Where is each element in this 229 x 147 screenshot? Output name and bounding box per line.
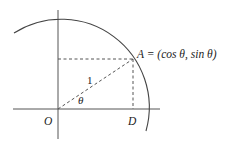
unit-circle-diagram: A = (cos θ, sin θ) 1 θ O D <box>0 0 229 147</box>
label-angle-theta: θ <box>78 94 84 106</box>
label-radius: 1 <box>87 74 93 86</box>
radius-OA-dashed <box>58 59 133 109</box>
label-origin-O: O <box>44 115 53 127</box>
label-point-A: A = (cos θ, sin θ) <box>136 48 217 61</box>
label-point-D: D <box>127 115 137 127</box>
